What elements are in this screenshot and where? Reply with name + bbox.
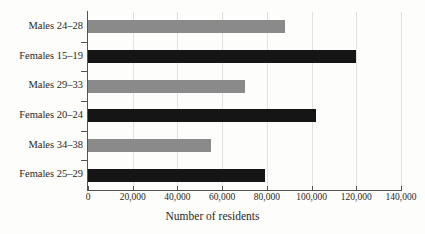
x-axis-tick-label: 120,000	[341, 192, 372, 202]
gridline	[401, 12, 402, 190]
bar-chart: Males 24–28Females 15–19Males 29–33Femal…	[0, 0, 425, 234]
category-label: Males 29–33	[0, 79, 83, 90]
x-axis-tick	[312, 186, 313, 191]
bar	[88, 109, 316, 122]
x-axis-tick-label: 140,000	[386, 192, 417, 202]
x-axis-tick-label: 80,000	[254, 192, 280, 202]
gridline	[222, 12, 223, 190]
x-axis-tick	[177, 186, 178, 191]
x-axis-line	[87, 190, 401, 191]
gridline	[133, 12, 134, 190]
y-axis-tick	[81, 101, 87, 102]
gridline	[356, 12, 357, 190]
bar	[88, 169, 265, 182]
y-axis-tick	[81, 42, 87, 43]
gridline	[312, 12, 313, 190]
bar	[88, 20, 285, 33]
x-axis-tick	[267, 186, 268, 191]
x-axis-title: Number of residents	[0, 210, 425, 222]
x-axis-tick-label: 100,000	[296, 192, 327, 202]
x-axis-tick-label: 20,000	[120, 192, 146, 202]
x-axis-tick-label: 60,000	[209, 192, 235, 202]
bar	[88, 139, 211, 152]
category-label: Females 15–19	[0, 50, 83, 61]
bar	[88, 80, 245, 93]
x-axis-tick	[88, 186, 89, 191]
gridline	[177, 12, 178, 190]
x-axis-tick	[401, 186, 402, 191]
y-axis-tick	[81, 71, 87, 72]
y-axis-tick	[81, 131, 87, 132]
category-label: Males 34–38	[0, 139, 83, 150]
category-label: Females 20–24	[0, 109, 83, 120]
category-label: Males 24–28	[0, 20, 83, 31]
x-axis-tick-label: 40,000	[164, 192, 190, 202]
plot-area	[88, 12, 401, 190]
bar	[88, 50, 356, 63]
category-label: Females 25–29	[0, 168, 83, 179]
gridline	[267, 12, 268, 190]
y-axis-line	[87, 11, 88, 191]
y-axis-tick	[81, 160, 87, 161]
x-axis-tick-label: 0	[86, 192, 91, 202]
x-axis-tick	[133, 186, 134, 191]
x-axis-tick	[356, 186, 357, 191]
x-axis-tick	[222, 186, 223, 191]
